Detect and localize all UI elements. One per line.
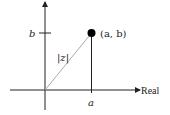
point-a-b	[88, 29, 96, 37]
real-axis-label: Real	[141, 85, 160, 96]
complex-plane-diagram: (a, b) b a |z| Real	[0, 0, 170, 115]
point-label: (a, b)	[100, 28, 127, 39]
b-label: b	[29, 28, 35, 39]
modulus-label: |z|	[57, 52, 69, 64]
a-label: a	[88, 97, 94, 108]
